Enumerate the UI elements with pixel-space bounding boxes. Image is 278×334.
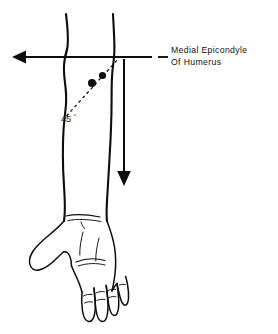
callout-label-line-2: Of Humerus [171, 57, 222, 67]
anatomical-figure: 45 ° Medial Epicondyle Of Humerus [0, 0, 278, 334]
angle-value-label: 45 [61, 114, 71, 124]
injection-point-proximal [99, 72, 106, 79]
injection-point-distal [88, 79, 96, 87]
callout-label-line-1: Medial Epicondyle [171, 45, 247, 55]
forearm-diagram-svg: 45 ° Medial Epicondyle Of Humerus [0, 0, 278, 334]
